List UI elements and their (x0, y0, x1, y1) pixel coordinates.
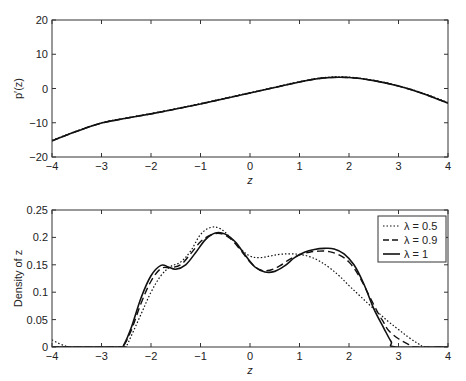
top-y-tick-label: 10 (36, 48, 48, 60)
bottom-x-tick-label: 1 (296, 350, 302, 362)
bottom-y-tick-label: 0.15 (27, 259, 48, 271)
top-x-tick-label: 2 (346, 160, 352, 172)
top-x-tick-label: 0 (247, 160, 253, 172)
top-plot-frame (52, 20, 448, 157)
bottom-y-tick-label: 0.25 (27, 204, 48, 216)
top-y-tick-label: −20 (29, 151, 48, 163)
top-x-axis-label: z (246, 174, 253, 186)
legend: λ = 0.5λ = 0.9λ = 1 (378, 216, 446, 262)
top-panel-derivative-plot: −4−3−2−101234−20−1001020 z p′(z) (12, 14, 451, 186)
bottom-y-axis-label: Density of z (12, 250, 24, 307)
bottom-panel-density-plot: −4−3−2−10123400.050.10.150.20.25 z Densi… (12, 204, 451, 376)
top-ticks-layer: −4−3−2−101234−20−1001020 (29, 14, 451, 172)
bottom-x-tick-label: −1 (194, 350, 207, 362)
bottom-x-axis-label: z (246, 364, 253, 376)
top-x-tick-label: −1 (194, 160, 207, 172)
top-series-line-dashed (52, 77, 448, 141)
top-x-tick-label: 1 (296, 160, 302, 172)
top-series-line-dotted (52, 77, 448, 140)
legend-entry-label: λ = 0.5 (404, 220, 437, 232)
bottom-y-tick-label: 0 (42, 341, 48, 353)
top-y-tick-label: 20 (36, 14, 48, 26)
top-y-tick-label: 0 (42, 83, 48, 95)
top-x-tick-label: −3 (95, 160, 108, 172)
bottom-y-tick-label: 0.1 (33, 286, 48, 298)
bottom-x-tick-label: −3 (95, 350, 108, 362)
bottom-x-tick-label: 4 (445, 350, 451, 362)
top-x-tick-label: 3 (395, 160, 401, 172)
bottom-x-tick-label: 2 (346, 350, 352, 362)
bottom-x-tick-label: −2 (145, 350, 158, 362)
top-x-tick-label: −2 (145, 160, 158, 172)
top-y-axis-label: p′(z) (12, 78, 24, 99)
legend-entry-label: λ = 0.9 (404, 234, 437, 246)
bottom-y-tick-label: 0.2 (33, 231, 48, 243)
top-x-tick-label: 4 (445, 160, 451, 172)
figure: −4−3−2−101234−20−1001020 z p′(z) −4−3−2−… (0, 0, 466, 381)
bottom-x-tick-label: 3 (395, 350, 401, 362)
legend-entry-label: λ = 1 (404, 248, 428, 260)
top-series-line-solid (52, 77, 448, 141)
bottom-y-tick-label: 0.05 (27, 314, 48, 326)
bottom-x-tick-label: 0 (247, 350, 253, 362)
top-series-layer (52, 77, 448, 141)
top-y-tick-label: −10 (29, 117, 48, 129)
